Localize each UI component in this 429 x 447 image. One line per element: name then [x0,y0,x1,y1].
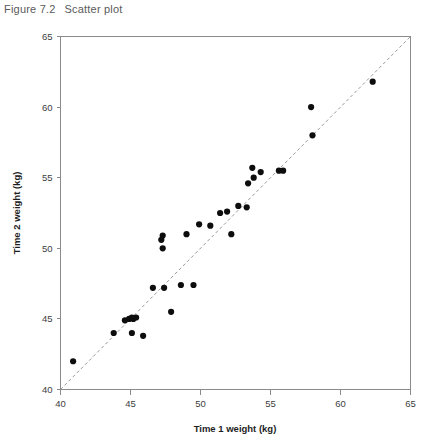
x-tick-label: 65 [405,398,416,409]
data-point [207,223,213,229]
figure-container: Figure 7.2Scatter plot 404550556065 4045… [0,0,429,447]
data-points-layer [70,79,376,365]
x-axis-ticks: 404550556065 [55,390,416,409]
data-point [150,285,156,291]
x-tick-label: 50 [195,398,206,409]
x-tick-label: 55 [265,398,276,409]
data-point [190,282,196,288]
data-point [370,79,376,85]
y-axis-title: Time 2 weight (kg) [11,172,22,255]
x-tick-label: 40 [55,398,66,409]
x-tick-label: 60 [335,398,346,409]
data-point [183,231,189,237]
y-tick-label: 55 [42,172,53,183]
data-point [160,245,166,251]
data-point [111,330,117,336]
data-point [245,180,251,186]
data-point [258,169,264,175]
data-point [178,282,184,288]
data-point [70,358,76,364]
y-tick-label: 45 [42,313,53,324]
data-point [161,285,167,291]
data-point [217,210,223,216]
data-point [224,208,230,214]
data-point [168,309,174,315]
y-tick-label: 60 [42,102,53,113]
scatter-plot-chart: 404550556065 404550556065 Time 1 weight … [0,0,429,447]
data-point [251,175,257,181]
x-tick-label: 45 [125,398,136,409]
data-point [129,330,135,336]
y-tick-label: 40 [42,384,53,395]
data-point [308,104,314,110]
y-axis-ticks: 404550556065 [42,31,61,395]
y-tick-label: 50 [42,243,53,254]
y-tick-label: 65 [42,31,53,42]
data-point [140,333,146,339]
data-point [196,221,202,227]
data-point [280,168,286,174]
data-point [249,165,255,171]
x-axis-title: Time 1 weight (kg) [194,423,277,434]
plot-frame [60,36,411,390]
identity-reference-line [61,37,411,390]
data-point [160,232,166,238]
data-point [235,203,241,209]
data-point [133,314,139,320]
data-point [228,231,234,237]
data-point [309,132,315,138]
data-point [244,204,250,210]
